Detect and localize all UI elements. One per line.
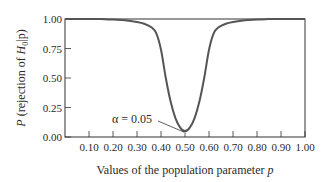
alpha-annotation: α = 0.05 (112, 112, 152, 126)
power-curve-chart: 0.000.250.500.751.00 0.100.200.300.400.5… (0, 0, 332, 182)
x-tick-label: 0.80 (247, 141, 267, 153)
x-axis-title: Values of the population parameter p (97, 163, 274, 177)
power-curve-line (65, 19, 305, 131)
x-tick-label: 0.10 (79, 141, 99, 153)
y-tick-label: 0.50 (43, 72, 63, 84)
x-tick-label: 0.40 (151, 141, 171, 153)
x-tick-label: 1.00 (295, 141, 315, 153)
x-tick-label: 0.20 (103, 141, 123, 153)
x-axis-ticks: 0.100.200.300.400.500.600.700.800.901.00 (79, 131, 315, 153)
y-tick-label: 0.75 (43, 43, 63, 55)
x-tick-label: 0.50 (175, 141, 195, 153)
y-tick-label: 0.25 (43, 102, 63, 114)
x-tick-label: 0.70 (223, 141, 243, 153)
x-tick-label: 0.90 (271, 141, 291, 153)
y-axis-ticks: 0.000.250.500.751.00 (43, 13, 71, 143)
y-tick-label: 0.00 (43, 131, 63, 143)
y-tick-label: 1.00 (43, 13, 63, 25)
x-tick-label: 0.60 (199, 141, 219, 153)
y-axis-title: P (rejection of H0|p) (14, 29, 30, 127)
x-tick-label: 0.30 (127, 141, 147, 153)
plot-border (65, 19, 305, 137)
plot-frame (65, 19, 305, 137)
